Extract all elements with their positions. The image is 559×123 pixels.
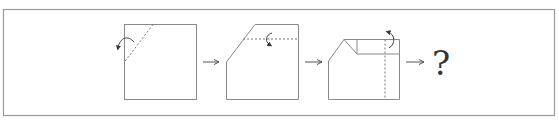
step-1-square xyxy=(118,25,197,100)
fold-arrow-icon xyxy=(118,38,134,48)
fold-line-diagonal xyxy=(125,25,154,63)
answer-question-mark: ? xyxy=(432,43,450,83)
step-2-shape xyxy=(227,25,299,100)
step-3-shape xyxy=(329,32,400,100)
folding-diagram: ? xyxy=(0,0,559,123)
